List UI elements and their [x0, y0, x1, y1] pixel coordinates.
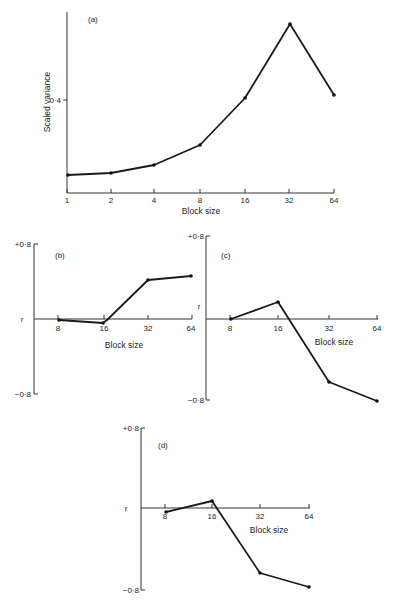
- chart-d: +0·8 −0·8 r (d) 8 16 32 64 Block size: [123, 424, 314, 595]
- chart-c-ybot-label: −0·8: [188, 396, 205, 405]
- chart-c-xtick-label: 16: [274, 324, 283, 333]
- chart-a-xticks: 1 2 4 8 16 32 64: [65, 189, 339, 205]
- chart-b-points: [57, 274, 193, 325]
- chart-b-panel-label: (b): [55, 251, 65, 260]
- chart-a-series: [68, 24, 334, 175]
- chart-b-xlabel: Block size: [105, 340, 144, 350]
- chart-d-ylabel: r: [125, 504, 128, 513]
- chart-a-xlabel: Block size: [182, 206, 221, 216]
- chart-b: +0·8 −0·8 r (b) 8 16 32 64 Block size: [15, 240, 196, 399]
- chart-c-ytop-label: +0·8: [188, 232, 205, 241]
- chart-a-xtick-label: 4: [152, 196, 157, 205]
- chart-b-xticks: 8 16 32 64: [56, 315, 196, 333]
- chart-a-panel-label: (a): [88, 15, 98, 24]
- chart-a-xtick-label: 1: [65, 196, 70, 205]
- chart-b-xtick-label: 32: [144, 324, 153, 333]
- chart-c-xlabel: Block size: [315, 337, 354, 347]
- chart-d-xlabel: Block size: [250, 525, 289, 535]
- chart-d-ybot-label: −0·8: [123, 586, 140, 595]
- chart-b-ytop-label: +0·8: [15, 240, 32, 249]
- chart-a-xtick-label: 64: [330, 196, 339, 205]
- chart-d-xtick-label: 64: [305, 512, 314, 521]
- chart-a-xtick-label: 32: [285, 196, 294, 205]
- chart-c-xtick-label: 64: [373, 324, 382, 333]
- chart-c: +0·8 −0·8 r (c) 8 16 32 64 Block size: [188, 232, 382, 405]
- chart-c-ylabel: r: [198, 302, 201, 311]
- chart-c-panel-label: (c): [221, 251, 231, 260]
- chart-a-ylabel: Scaled variance: [42, 71, 52, 132]
- chart-d-ytop-label: +0·8: [123, 424, 140, 433]
- chart-c-xtick-label: 32: [325, 324, 334, 333]
- chart-a-xtick-label: 2: [109, 196, 114, 205]
- chart-c-xtick-label: 8: [228, 324, 233, 333]
- chart-b-series: [59, 276, 191, 323]
- chart-d-panel-label: (d): [158, 441, 168, 450]
- chart-a-xtick-label: 8: [198, 196, 203, 205]
- chart-a-points: [66, 22, 336, 177]
- chart-c-series: [231, 302, 377, 401]
- chart-c-points: [229, 300, 379, 403]
- chart-b-xtick-label: 16: [100, 324, 109, 333]
- chart-b-ylabel: r: [21, 315, 24, 324]
- chart-c-xticks: 8 16 32 64: [228, 315, 382, 333]
- chart-d-xtick-label: 16: [208, 512, 217, 521]
- figure-canvas: 0·4 Scaled variance (a) 1 2 4 8 16 32 64…: [0, 0, 395, 607]
- chart-b-ybot-label: −0·8: [15, 390, 32, 399]
- chart-b-xtick-label: 64: [187, 324, 196, 333]
- chart-d-series: [166, 501, 309, 587]
- chart-d-points: [164, 499, 311, 589]
- chart-a-xtick-label: 16: [241, 196, 250, 205]
- chart-b-xtick-label: 8: [56, 324, 61, 333]
- chart-d-xtick-label: 32: [256, 512, 265, 521]
- chart-a: 0·4 Scaled variance (a) 1 2 4 8 16 32 64…: [42, 12, 339, 216]
